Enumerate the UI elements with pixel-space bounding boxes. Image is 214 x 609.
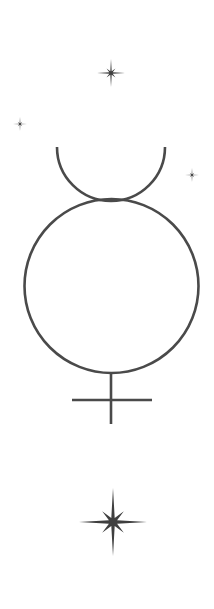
figure-canvas: Mercury symbol with stars	[0, 0, 214, 609]
crescent-arc-icon	[57, 147, 165, 201]
stars-group	[13, 59, 199, 556]
star-top-icon	[97, 59, 125, 87]
star-right-icon	[185, 168, 199, 182]
star-left-icon	[13, 117, 27, 131]
circle-body-icon	[25, 199, 199, 373]
star-bottom-icon	[79, 488, 147, 556]
mercury-illustration	[0, 0, 214, 609]
mercury-symbol-icon	[25, 147, 199, 424]
